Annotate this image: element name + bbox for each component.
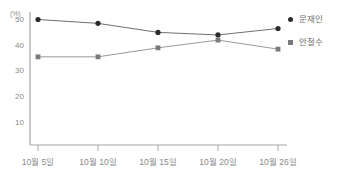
data-point (96, 54, 101, 59)
data-point (95, 21, 100, 26)
legend-item-1: 안철수 (288, 37, 336, 47)
x-tick-label-4: 10월 26일 (259, 158, 296, 167)
legend-item-0: 문재인 (288, 14, 336, 24)
legend-label-1: 안철수 (299, 38, 323, 47)
square-marker-icon (288, 40, 293, 45)
x-tick-label-2: 10월 15일 (139, 158, 176, 167)
chart-legend: 문재인 안철수 (288, 14, 336, 60)
data-point (36, 54, 41, 59)
data-point (156, 45, 161, 50)
poll-line-chart: (%) 50 40 30 20 10 10월 5일 10월 10일 10월 15… (0, 0, 337, 178)
circle-marker-icon (288, 17, 293, 22)
plot-area (0, 0, 337, 178)
data-point (215, 32, 220, 37)
x-tick-label-3: 10월 20일 (199, 158, 236, 167)
x-axis-ticks (38, 145, 278, 151)
data-point (35, 17, 40, 22)
data-point (216, 38, 221, 43)
data-point (275, 26, 280, 31)
series-layer (35, 17, 280, 59)
data-point (155, 30, 160, 35)
x-tick-label-0: 10월 5일 (22, 158, 55, 167)
data-point (276, 47, 281, 52)
x-tick-label-1: 10월 10일 (79, 158, 116, 167)
legend-label-0: 문재인 (299, 15, 323, 24)
